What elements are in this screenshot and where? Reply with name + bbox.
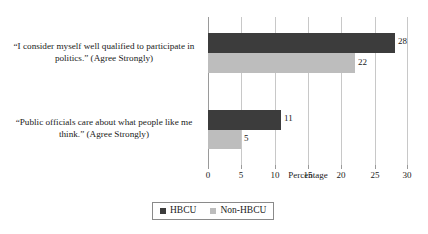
legend-swatch-non-hbcu (210, 208, 216, 214)
plot-area: 28 22 11 5 0 5 10 15 20 25 30 (208, 17, 408, 165)
bar-nonhbcu-group-0 (208, 53, 355, 73)
tick-mark-15 (308, 165, 309, 169)
category-label-1-line-0: “Public officials care about what people… (16, 117, 193, 127)
category-label-0-line-0: “I consider myself well qualified to par… (14, 41, 195, 51)
bar-hbcu-group-1 (208, 110, 281, 130)
category-label-1-line-1: think.” (Agree Strongly) (59, 129, 149, 139)
bar-nonhbcu-group-1 (208, 130, 241, 149)
tick-mark-20 (341, 165, 342, 169)
category-label-0-line-1: politics.” (Agree Strongly) (55, 53, 153, 63)
chart-legend: HBCU Non-HBCU (152, 202, 274, 220)
x-axis-title: Percentage (208, 170, 408, 181)
category-label-1: “Public officials care about what people… (6, 116, 202, 140)
category-label-0: “I consider myself well qualified to par… (6, 40, 202, 64)
tick-mark-30 (407, 165, 408, 169)
legend-label-non-hbcu: Non-HBCU (220, 205, 266, 216)
bar-value-hbcu-group-0: 28 (398, 36, 407, 47)
grouped-bar-chart: “I consider myself well qualified to par… (0, 0, 428, 234)
bar-value-nonhbcu-group-0: 22 (358, 57, 367, 68)
legend-swatch-hbcu (160, 208, 166, 214)
bar-value-hbcu-group-1: 11 (284, 113, 293, 124)
legend-item-hbcu: HBCU (160, 205, 196, 216)
tick-mark-5 (241, 165, 242, 169)
bar-value-nonhbcu-group-1: 5 (244, 133, 249, 144)
tick-mark-0 (208, 165, 209, 169)
legend-label-hbcu: HBCU (170, 205, 196, 216)
bar-hbcu-group-0 (208, 33, 395, 53)
legend-item-non-hbcu: Non-HBCU (210, 205, 266, 216)
gridline-30 (407, 17, 408, 165)
tick-mark-25 (375, 165, 376, 169)
tick-mark-10 (275, 165, 276, 169)
